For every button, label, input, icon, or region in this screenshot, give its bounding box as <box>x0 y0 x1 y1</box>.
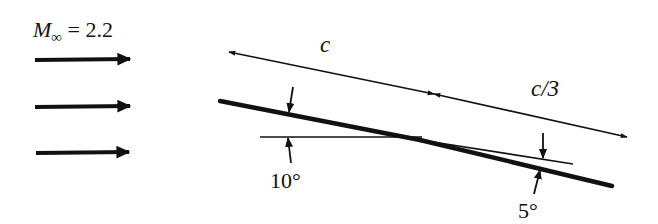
chord-label: c <box>320 33 330 56</box>
angle-10-leader-arrow <box>288 138 291 163</box>
angle-5-bottom-leader-arrow <box>534 170 540 194</box>
flow-arrow-3 <box>36 152 129 153</box>
angle-10-label: 10° <box>270 170 301 192</box>
mach-subscript: ∞ <box>51 29 62 45</box>
mach-value: = 2.2 <box>68 17 113 42</box>
freestream-arrows <box>35 59 130 153</box>
main-plate <box>220 101 420 140</box>
flap-plate <box>420 140 612 186</box>
chord-dimension-line <box>229 52 434 94</box>
flap-chord-label: c/3 <box>531 77 559 100</box>
flow-arrow-1 <box>35 59 130 60</box>
freestream-mach-label: M∞ = 2.2 <box>33 19 113 45</box>
angle-5-label: 5° <box>518 200 538 222</box>
mach-symbol: M <box>33 17 51 42</box>
flow-arrow-2 <box>35 106 130 107</box>
plate-top-leader-arrow <box>289 87 293 112</box>
